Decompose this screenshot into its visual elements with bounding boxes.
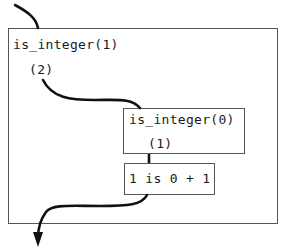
inner-port-label: (1) — [148, 136, 172, 151]
inner-call-label: is_integer(0) — [129, 112, 235, 127]
goal-label: 1 is 0 + 1 — [129, 171, 210, 186]
outer-call-label: is_integer(1) — [13, 37, 119, 52]
outer-port-label: (2) — [29, 62, 53, 77]
entry-curve — [15, 5, 38, 28]
arrowhead-icon — [33, 232, 43, 247]
